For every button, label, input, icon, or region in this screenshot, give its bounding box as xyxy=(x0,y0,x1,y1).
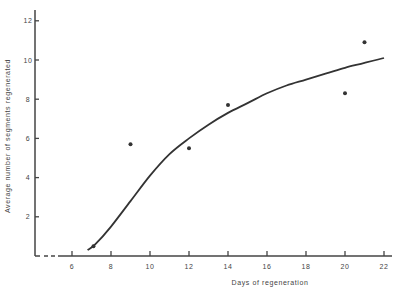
data-point xyxy=(363,40,367,44)
x-ticks: 6810121416182022 xyxy=(70,251,389,270)
y-ticks: 24681012 xyxy=(24,17,39,220)
data-points xyxy=(91,40,366,248)
x-tick-label: 16 xyxy=(263,263,272,270)
x-tick-label: 6 xyxy=(70,263,74,270)
data-point xyxy=(226,103,230,107)
x-tick-label: 8 xyxy=(109,263,113,270)
y-tick-label: 8 xyxy=(26,96,30,103)
x-tick-label: 18 xyxy=(302,263,311,270)
data-point xyxy=(129,142,133,146)
y-tick-label: 10 xyxy=(24,57,33,64)
y-tick-label: 2 xyxy=(26,213,30,220)
x-tick-label: 14 xyxy=(224,263,233,270)
chart: 24681012 6810121416182022 Days of regene… xyxy=(0,0,398,292)
y-axis-label: Average number of segments regenerated xyxy=(4,59,12,213)
axes xyxy=(35,10,392,256)
data-point xyxy=(91,244,95,248)
x-axis-label: Days of regeneration xyxy=(232,279,309,287)
data-point xyxy=(187,146,191,150)
x-tick-label: 20 xyxy=(341,263,350,270)
data-point xyxy=(343,91,347,95)
y-tick-label: 12 xyxy=(24,17,33,24)
y-tick-label: 6 xyxy=(26,135,30,142)
x-tick-label: 10 xyxy=(146,263,155,270)
fitted-curve xyxy=(88,58,384,250)
y-tick-label: 4 xyxy=(26,174,30,181)
x-tick-label: 12 xyxy=(185,263,194,270)
x-tick-label: 22 xyxy=(380,263,389,270)
